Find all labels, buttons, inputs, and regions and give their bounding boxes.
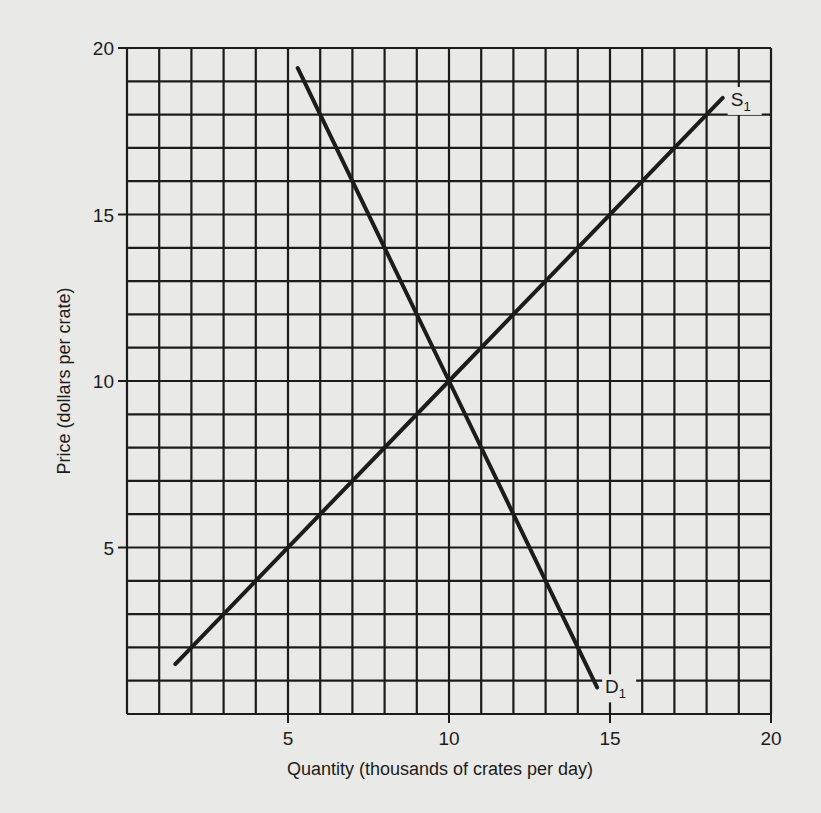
chart-svg: 51015205101520 S1D1 Quantity (thousands … [0,0,821,813]
y-tick-label: 5 [103,538,114,559]
y-tick-label: 15 [93,205,114,226]
y-tick-label: 20 [93,38,114,59]
x-tick-label: 15 [599,728,620,749]
demand-curve-d1 [298,68,597,687]
x-axis-title: Quantity (thousands of crates per day) [287,759,593,779]
y-axis-title: Price (dollars per crate) [54,287,74,474]
x-tick-label: 5 [283,728,294,749]
chart: 51015205101520 S1D1 Quantity (thousands … [0,0,821,813]
x-tick-label: 20 [760,728,781,749]
x-tick-label: 10 [438,728,459,749]
y-tick-label: 10 [93,371,114,392]
